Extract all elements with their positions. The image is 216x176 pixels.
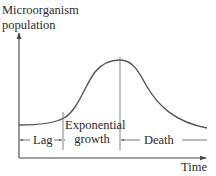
phase-label-lag: Lag [31,133,54,147]
y-axis-label-line2: population [2,18,79,33]
y-axis-label-line1: Microorganism [2,3,79,18]
x-axis-label: Time [181,160,207,174]
phase-label-death: Death [142,133,176,147]
phase-label-exponential-line1: Exponential [65,118,119,132]
y-axis-label: Microorganism population [2,3,79,33]
phase-label-exponential-growth: Exponential growth [65,118,119,146]
phase-label-exponential-line2: growth [72,132,111,146]
